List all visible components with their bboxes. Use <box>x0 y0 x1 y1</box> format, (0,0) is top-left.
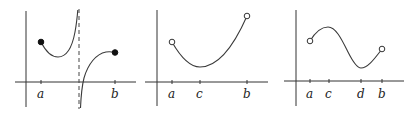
p2-curve <box>172 16 247 67</box>
p3-endpoint-a-open <box>307 38 313 44</box>
p2-label-c: c <box>196 87 203 101</box>
p3-label-d: d <box>357 87 365 101</box>
p3-label-c: c <box>325 87 332 101</box>
p2-label-b: b <box>243 87 251 101</box>
p2-label-a: a <box>168 87 175 101</box>
p1-right-branch <box>81 52 116 108</box>
p3-label-a: a <box>306 87 313 101</box>
function-graphs-figure: a b a c b a c <box>0 0 418 113</box>
p1-left-branch <box>41 10 78 57</box>
p2-endpoint-b-open <box>244 13 250 19</box>
p3-label-b: b <box>378 87 386 101</box>
panel-2-minimum-graph: a c b <box>145 10 268 106</box>
panel-1-asymptote-graph: a b <box>15 9 136 109</box>
p2-endpoint-a-open <box>169 39 175 45</box>
p3-curve <box>310 27 382 68</box>
p1-endpoint-a-closed <box>38 39 44 45</box>
p1-label-b: b <box>111 87 119 101</box>
p1-endpoint-b-closed <box>112 50 118 56</box>
panel-3-extrema-graph: a c d b <box>284 10 404 106</box>
p3-endpoint-b-open <box>379 46 385 52</box>
p1-label-a: a <box>37 87 44 101</box>
